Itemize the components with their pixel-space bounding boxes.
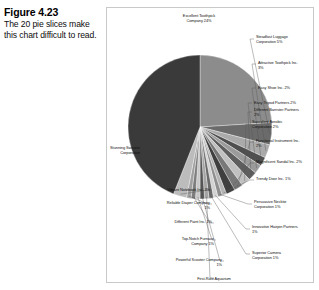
pie-label-superior-camera: Superior Camera Corporation 1% [252,251,312,261]
pie-label-different-paint: Different Paint Inc. 1% [146,220,212,225]
pie-label-succulent-aerobic: Succulent Aerobic Corporation 2% [252,120,312,130]
figure-caption-title: Figure 4.23 [4,6,100,18]
pie-label-easy-shoe: Easy Shoe Inc. 2% [258,86,316,91]
pie-label-easy-tripod: Easy Tripod Partners 2% [254,101,316,106]
pie-label-reliable-diaper: Reliable Diaper Company 1% [142,201,210,211]
figure-caption-text: The 20 pie slices make this chart diffic… [4,19,100,40]
pie-label-attractive-toothpick: Attractive Toothpick Inc. 3% [258,61,316,71]
figure-caption: Figure 4.23 The 20 pie slices make this … [4,6,100,41]
pie-label-top-notch-furnace: Top-Notch Furnace Company 1% [156,237,214,247]
pie-label-excellent-toothpick: Excellent Toothpick Company 24% [168,14,230,24]
pie-label-vibrant-notebook: Vibrant Notebook Inc. 3% [132,188,210,193]
pie-label-powerful-scooter: Powerful Scooter Company 1% [160,258,222,268]
pie-label-persuasive-necktie: Persuasive Necktie Corporation 1% [254,200,314,210]
pie-label-stunning-sweater: Stunning Sweater Corporation [86,146,140,156]
pie-label-different-barrister: Different Barrister Partners 2% [254,108,318,118]
pie-label-steadfast-luggage: Steadfast Luggage Corporation 5% [256,35,316,45]
pie-label-innovative-hairpin: Innovative Hairpin Partners 1% [252,225,316,235]
pie-label-magnificent-sandal: Magnificent Sandal Inc. 2% [256,160,318,165]
pie-label-functional-instrument: Functional Instrument Inc. 2% [256,139,316,149]
pie-label-trendy-door: Trendy Door Inc. 1% [256,177,316,182]
pie-label-first-rate-aquarium: First-Rate Aquarium [186,277,242,282]
